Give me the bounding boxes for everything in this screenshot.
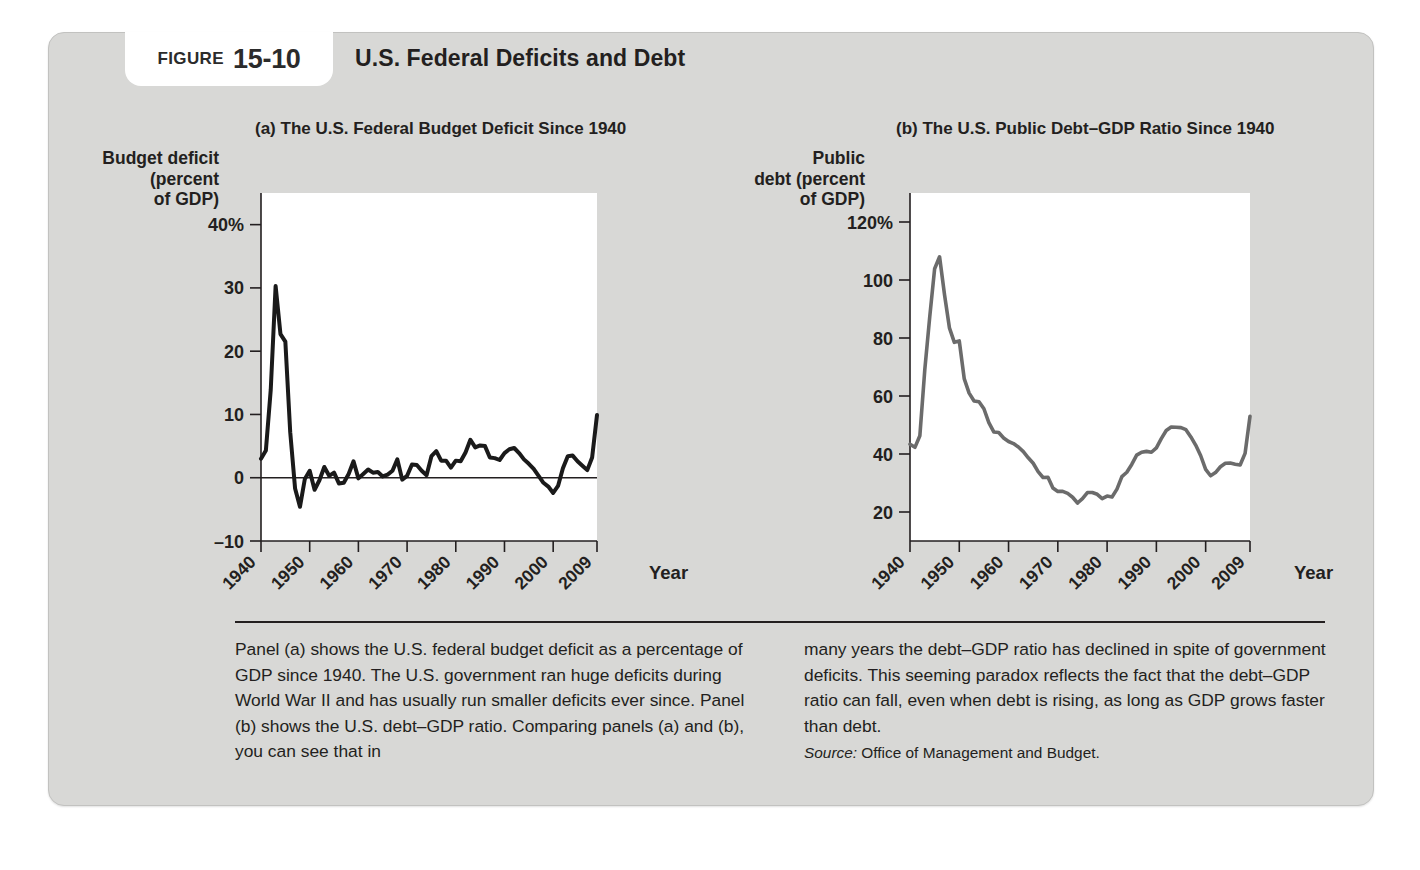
panel-a-subtitle: (a) The U.S. Federal Budget Deficit Sinc… [255,119,626,139]
svg-text:1940: 1940 [867,552,909,594]
svg-text:2009: 2009 [554,552,596,594]
figure-number-tab: Figure 15-10 [125,32,333,86]
figure-label: Figure [157,49,224,69]
panel-a-x-axis-title: Year [649,562,688,584]
panel-a-chart: –10010203040%194019501960197019801990200… [49,141,669,601]
figure-number: 15-10 [233,44,301,75]
source-text: Office of Management and Budget. [861,744,1099,761]
svg-text:100: 100 [863,271,893,291]
svg-text:1980: 1980 [1064,552,1106,594]
svg-text:0: 0 [234,468,244,488]
svg-text:1950: 1950 [267,552,309,594]
caption-left-text: Panel (a) shows the U.S. federal budget … [235,637,760,765]
svg-text:2000: 2000 [1163,552,1205,594]
svg-text:60: 60 [873,387,893,407]
panel-b-chart: 20406080100120%1940195019601970198019902… [690,141,1330,601]
svg-text:30: 30 [224,278,244,298]
figure-title: U.S. Federal Deficits and Debt [355,45,685,72]
caption-divider [235,621,1325,623]
panel-b-subtitle: (b) The U.S. Public Debt–GDP Ratio Since… [896,119,1275,139]
svg-text:1980: 1980 [413,552,455,594]
svg-text:2000: 2000 [510,552,552,594]
svg-text:1950: 1950 [916,552,958,594]
svg-text:1990: 1990 [1114,552,1156,594]
svg-text:10: 10 [224,405,244,425]
caption-block: Panel (a) shows the U.S. federal budget … [235,637,1329,765]
svg-text:1970: 1970 [364,552,406,594]
caption-left-column: Panel (a) shows the U.S. federal budget … [235,637,760,765]
caption-right-column: many years the debt–GDP ratio has declin… [804,637,1329,765]
svg-text:40: 40 [873,445,893,465]
svg-text:1970: 1970 [1015,552,1057,594]
svg-text:1940: 1940 [218,552,260,594]
figure-container: Figure 15-10 U.S. Federal Deficits and D… [48,32,1374,806]
svg-text:40%: 40% [208,215,244,235]
svg-text:2009: 2009 [1207,552,1249,594]
source-label: Source: [804,744,857,761]
svg-text:20: 20 [873,503,893,523]
svg-text:1990: 1990 [462,552,504,594]
svg-text:1960: 1960 [966,552,1008,594]
panel-b-x-axis-title: Year [1294,562,1333,584]
figure-screenshot: Figure 15-10 U.S. Federal Deficits and D… [0,0,1420,870]
svg-text:1960: 1960 [316,552,358,594]
svg-text:120%: 120% [847,213,893,233]
source-line: Source: Office of Management and Budget. [804,742,1329,765]
svg-text:20: 20 [224,342,244,362]
caption-right-text: many years the debt–GDP ratio has declin… [804,637,1329,739]
svg-text:–10: –10 [214,532,244,552]
svg-text:80: 80 [873,329,893,349]
